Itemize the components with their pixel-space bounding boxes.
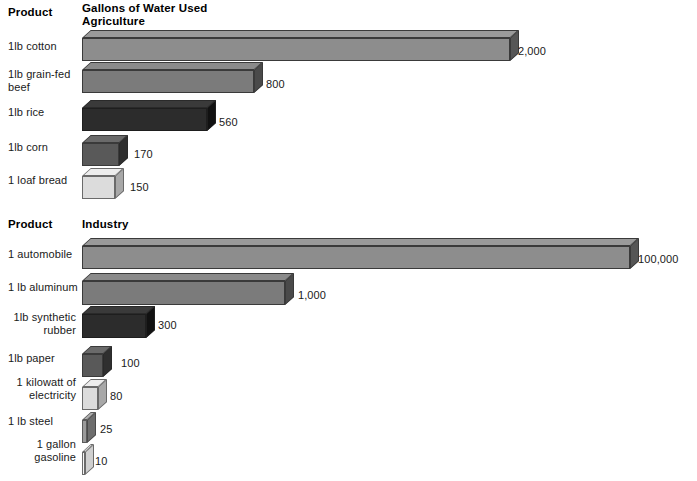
row-label: 1lb corn <box>8 141 80 154</box>
row-label: 1lb paper <box>8 352 80 365</box>
bar-value-label: 100,000 <box>638 253 678 265</box>
bar-value-label: 80 <box>110 390 122 402</box>
bar-front-face <box>82 387 98 410</box>
chart-title-agriculture: Gallons of Water Used <box>82 2 207 15</box>
bar-top-face <box>82 238 639 246</box>
bar-top-face <box>82 273 294 281</box>
bar-value-label: 1,000 <box>298 289 326 301</box>
row-label: 1lb rice <box>8 106 80 119</box>
bar-top-face <box>82 100 216 108</box>
bar-value-label: 2,000 <box>518 45 546 57</box>
row-label: 1lb synthetic rubber <box>6 311 76 336</box>
chart-title-industry: Industry <box>82 218 129 231</box>
row-label: 1 gallon gasoline <box>6 438 76 463</box>
bar-value-label: 560 <box>219 116 238 128</box>
column-header-product-agriculture: Product <box>8 6 53 19</box>
row-label: 1lb grain-fed beef <box>8 68 80 93</box>
bar-value-label: 150 <box>130 181 149 193</box>
row-label: 1 lb aluminum <box>8 281 80 294</box>
bar-front-face <box>82 143 119 166</box>
bar-value-label: 25 <box>100 423 112 435</box>
row-label: 1 lb steel <box>8 415 80 428</box>
bar-front-face <box>82 108 207 131</box>
bar-value-label: 800 <box>266 78 285 90</box>
row-label: 1lb cotton <box>8 40 80 53</box>
bar-value-label: 300 <box>158 319 177 331</box>
bar-front-face <box>82 354 103 377</box>
column-header-product-industry: Product <box>8 218 53 231</box>
bar-front-face <box>82 246 630 269</box>
bar-top-face <box>82 62 263 70</box>
bar-front-face <box>82 70 254 93</box>
bar-top-face <box>82 306 155 314</box>
bar-front-face <box>82 38 510 61</box>
bar-value-label: 170 <box>134 148 153 160</box>
bar-front-face <box>82 281 285 305</box>
bar-front-face <box>82 176 115 199</box>
chart-subtitle-agriculture: Agriculture <box>82 15 145 28</box>
bar-value-label: 10 <box>95 455 107 467</box>
bar-front-face <box>82 314 146 338</box>
row-label: 1 loaf bread <box>8 174 80 187</box>
bar-value-label: 100 <box>121 357 140 369</box>
row-label: 1 automobile <box>8 248 80 261</box>
bar-top-face <box>82 30 519 38</box>
row-label: 1 kilowatt of electricity <box>6 376 76 401</box>
